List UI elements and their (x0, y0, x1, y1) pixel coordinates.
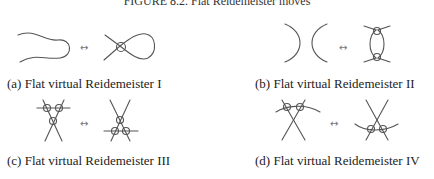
arrow-icon: ↔ (339, 42, 347, 53)
arrow-icon: ↔ (330, 118, 338, 129)
caption-b: (b) Flat virtual Reidemeister II (255, 76, 415, 92)
panel-d-diagram: ↔ (276, 100, 398, 140)
panel-c-diagram: ↔ (37, 100, 138, 141)
arrow-icon: ↔ (80, 42, 88, 53)
panel-a-diagram: ↔ (18, 33, 155, 62)
caption-c: (c) Flat virtual Reidemeister III (7, 153, 170, 169)
arrow-icon: ↔ (80, 118, 88, 129)
caption-d: (d) Flat virtual Reidemeister IV (255, 153, 420, 169)
caption-a: (a) Flat virtual Reidemeister I (7, 76, 162, 92)
panel-b-diagram: ↔ (285, 24, 390, 62)
